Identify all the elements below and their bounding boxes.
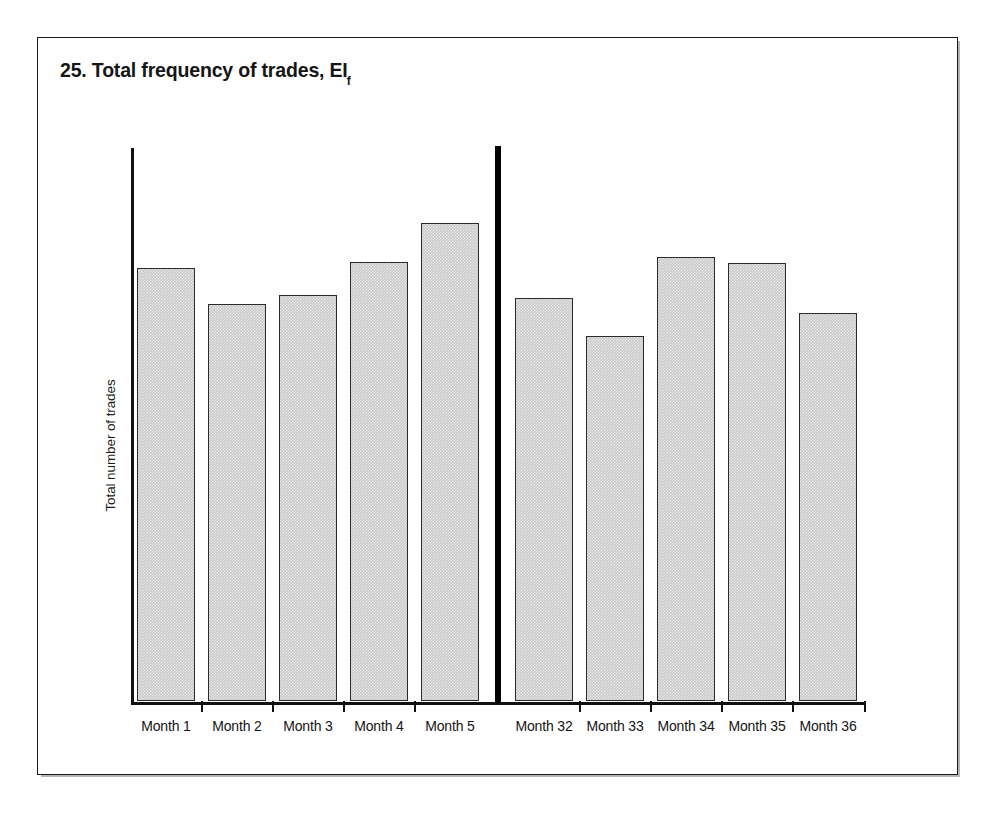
bar [586, 336, 644, 701]
bar [421, 223, 479, 701]
x-axis-category-label: Month 5 [407, 718, 493, 734]
x-axis-tick [864, 701, 866, 712]
x-axis-tick [650, 701, 652, 712]
x-axis-tick [721, 701, 723, 712]
bar [350, 262, 408, 701]
bars-layer [38, 38, 959, 776]
figure-frame: 25. Total frequency of trades, EIf Total… [37, 37, 958, 775]
x-axis-tick [792, 701, 794, 712]
x-axis-tick [414, 701, 416, 712]
bar [657, 257, 715, 701]
x-axis-tick [579, 701, 581, 712]
bar [137, 268, 195, 701]
x-axis-tick [343, 701, 345, 712]
bar [728, 263, 786, 701]
x-axis-tick [201, 701, 203, 712]
figure-root: 25. Total frequency of trades, EIf Total… [0, 0, 1003, 823]
x-axis-category-label: Month 36 [785, 718, 871, 734]
x-axis-tick [272, 701, 274, 712]
bar [208, 304, 266, 701]
bar [279, 295, 337, 701]
bar [515, 298, 573, 701]
bar [799, 313, 857, 701]
plot-area: Total number of trades Month 1Month 2Mon… [38, 38, 959, 776]
